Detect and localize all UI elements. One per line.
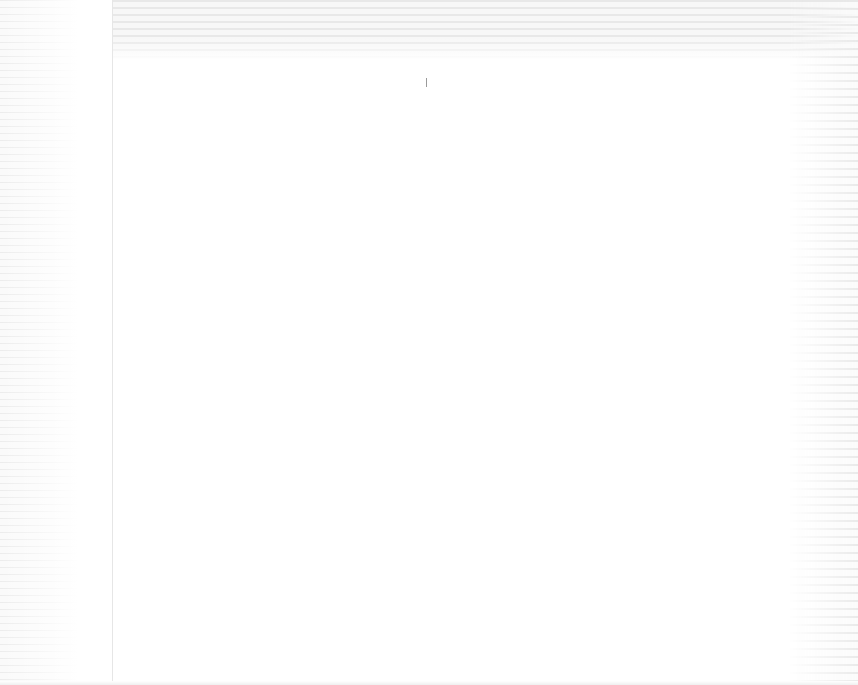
sidebar [0, 0, 112, 685]
text-cursor-icon [426, 78, 427, 87]
main-content-area[interactable] [113, 60, 858, 685]
toolbar [0, 0, 858, 60]
window-bottom-edge [0, 681, 858, 685]
main-content [113, 60, 114, 61]
